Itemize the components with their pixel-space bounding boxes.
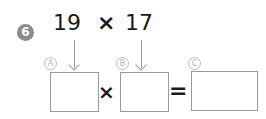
math-exercise: 6 19 × 17 A × B = C [0,0,266,119]
answer-box-c[interactable] [191,71,258,111]
operand-a: 19 [53,10,81,36]
operator-sign: × [97,10,115,36]
label-a: A [44,57,57,70]
equals-sign: = [169,78,187,103]
label-b: B [116,57,129,70]
answer-box-b[interactable] [120,72,169,112]
times-sign: × [98,80,115,104]
answer-box-a[interactable] [50,72,99,112]
problem-number-badge: 6 [17,24,34,41]
arrow-head-icon [135,59,146,70]
arrow-head-icon [68,59,79,70]
operand-b: 17 [125,10,153,36]
label-c: C [188,57,201,70]
